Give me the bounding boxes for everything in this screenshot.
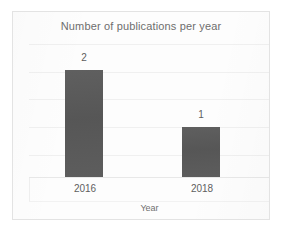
gridline [29, 44, 270, 45]
bar-value-label-2016: 2 [65, 52, 103, 63]
chart-frame: Number of publications per year 2 1 2016… [12, 11, 270, 220]
bar-value-label-2018: 1 [182, 109, 220, 120]
x-axis-title: Year [29, 203, 270, 213]
bar-2016[interactable] [65, 70, 103, 178]
bar-2018[interactable] [182, 127, 220, 178]
chart-title: Number of publications per year [13, 20, 269, 32]
category-axis-band: 2016 2018 [29, 178, 270, 202]
plot-area: 2 1 [29, 34, 270, 178]
category-label-2016: 2016 [49, 183, 121, 194]
category-label-2018: 2018 [166, 183, 238, 194]
